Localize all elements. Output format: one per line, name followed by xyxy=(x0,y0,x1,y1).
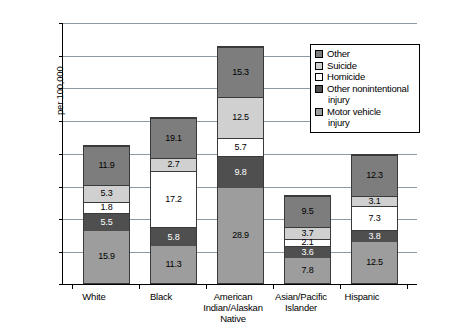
segment-suicide: 3.7 xyxy=(285,227,330,239)
segment-value: 12.5 xyxy=(366,258,383,267)
ytick-mark-70 xyxy=(59,56,63,57)
xtick-5 xyxy=(407,284,408,289)
segment-value: 15.9 xyxy=(98,252,115,261)
xtick-3 xyxy=(273,284,274,289)
y-axis-title: per 100,000 xyxy=(54,66,65,115)
bar-hispanic: 12.5 3.8 7.3 3.1 12.3 xyxy=(351,154,398,284)
segment-value: 12.5 xyxy=(232,113,249,122)
segment-motor-vehicle-injury: 12.5 xyxy=(352,242,397,283)
segment-homicide: 7.3 xyxy=(352,206,397,230)
legend-item-homicide: Homicide xyxy=(315,71,416,83)
legend-swatch-motor-vehicle-injury-icon xyxy=(315,108,323,116)
segment-other: 15.3 xyxy=(218,47,263,97)
xcat-hispanic: Hispanic xyxy=(325,291,399,302)
legend: Other Suicide Homicide Other nonintentio… xyxy=(310,44,420,133)
legend-swatch-homicide-icon xyxy=(315,73,323,81)
segment-value: 19.1 xyxy=(165,134,182,143)
legend-label-continuation: injury xyxy=(315,94,416,106)
xcat-line: Native xyxy=(185,313,281,324)
legend-item-suicide: Suicide xyxy=(315,60,416,72)
segment-motor-vehicle-injury: 15.9 xyxy=(84,231,129,283)
legend-swatch-other-icon xyxy=(315,50,323,58)
xcat-white: White xyxy=(57,291,131,302)
segment-value: 3.6 xyxy=(302,248,314,257)
legend-item-other: Other xyxy=(315,48,416,60)
segment-other-nonintentional-injury: 3.8 xyxy=(352,230,397,242)
segment-suicide: 3.1 xyxy=(352,196,397,206)
segment-homicide: 2.1 xyxy=(285,239,330,246)
segment-value: 12.3 xyxy=(366,171,383,180)
segment-value: 9.8 xyxy=(235,168,247,177)
segment-value: 5.7 xyxy=(235,143,247,152)
xtick-4 xyxy=(340,284,341,289)
segment-value: 11.3 xyxy=(165,260,181,269)
legend-label: Homicide xyxy=(327,71,365,83)
segment-suicide: 2.7 xyxy=(151,158,196,171)
segment-other: 19.1 xyxy=(151,118,196,158)
segment-other-nonintentional-injury: 3.6 xyxy=(285,246,330,258)
legend-swatch-suicide-icon xyxy=(315,62,323,70)
segment-other-nonintentional-injury: 9.8 xyxy=(218,156,263,188)
xtick-2 xyxy=(206,284,207,289)
ytick-mark-0 xyxy=(59,284,63,285)
ytick-mark-20 xyxy=(59,219,63,220)
segment-value: 5.3 xyxy=(101,189,113,198)
ytick-mark-80 xyxy=(59,23,63,24)
legend-item-motor-vehicle-injury: Motor vehicle xyxy=(315,106,416,118)
segment-value: 2.1 xyxy=(302,238,314,247)
segment-motor-vehicle-injury: 7.8 xyxy=(285,258,330,284)
bar-american-indian-alaskan-native: 28.9 9.8 5.7 12.5 15.3 xyxy=(217,46,264,284)
xcat-line: Hispanic xyxy=(325,291,399,302)
segment-suicide: 12.5 xyxy=(218,97,263,138)
bar-black: 11.3 5.8 17.2 2.7 19.1 xyxy=(150,117,197,284)
legend-label-continuation: injury xyxy=(315,117,416,129)
segment-homicide: 5.7 xyxy=(218,138,263,157)
ytick-mark-10 xyxy=(59,252,63,253)
segment-value: 15.3 xyxy=(232,68,249,77)
ytick-mark-30 xyxy=(59,187,63,188)
segment-value: 5.8 xyxy=(168,233,180,242)
segment-value: 28.9 xyxy=(232,231,249,240)
segment-value: 7.8 xyxy=(302,266,314,275)
xcat-line: Islander xyxy=(258,302,344,313)
xtick-1 xyxy=(139,284,140,289)
legend-item-other-nonintentional-injury: Other nonintentional xyxy=(315,83,416,95)
legend-swatch-other-nonintentional-injury-icon xyxy=(315,85,323,93)
segment-homicide: 17.2 xyxy=(151,171,196,227)
segment-motor-vehicle-injury: 28.9 xyxy=(218,188,263,283)
legend-label: Motor vehicle xyxy=(327,106,381,118)
segment-other-nonintentional-injury: 5.8 xyxy=(151,227,196,246)
segment-value: 5.5 xyxy=(101,218,113,227)
segment-value: 3.8 xyxy=(369,232,381,241)
segment-value: 7.3 xyxy=(369,214,381,223)
segment-other-nonintentional-injury: 5.5 xyxy=(84,213,129,231)
bar-asian-pacific-islander: 7.8 3.6 2.1 3.7 9.5 xyxy=(284,195,331,284)
bar-white: 15.9 5.5 1.8 5.3 11.9 xyxy=(83,145,130,284)
legend-label: Other nonintentional xyxy=(327,83,409,95)
xtick-0 xyxy=(72,284,73,289)
segment-value: 1.8 xyxy=(101,203,113,212)
segment-other: 11.9 xyxy=(84,146,129,185)
segment-value: 2.7 xyxy=(168,160,180,169)
segment-value: 17.2 xyxy=(165,195,182,204)
injury-death-rate-chart: 80 70 60 50 40 30 20 10 0 per 100,000 xyxy=(0,0,453,328)
ytick-mark-40 xyxy=(59,154,63,155)
segment-other: 12.3 xyxy=(352,155,397,195)
segment-motor-vehicle-injury: 11.3 xyxy=(151,246,196,283)
ytick-mark-50 xyxy=(59,121,63,122)
segment-value: 11.9 xyxy=(98,161,114,170)
segment-homicide: 1.8 xyxy=(84,202,129,213)
legend-label: Suicide xyxy=(327,60,357,72)
segment-value: 3.7 xyxy=(302,229,314,238)
segment-suicide: 5.3 xyxy=(84,185,129,202)
xcat-line: White xyxy=(57,291,131,302)
segment-value: 9.5 xyxy=(302,207,314,216)
segment-value: 3.1 xyxy=(369,197,381,206)
gridline-80 xyxy=(63,23,417,24)
legend-label: Other xyxy=(327,48,350,60)
segment-other: 9.5 xyxy=(285,196,330,227)
